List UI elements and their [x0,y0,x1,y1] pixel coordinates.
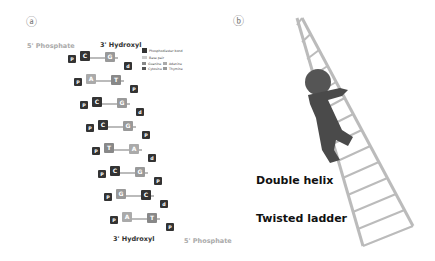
legend-item: Thymine [169,67,183,71]
svg-text:G: G [126,122,131,129]
svg-text:P: P [100,172,104,177]
svg-text:P: P [70,57,74,62]
svg-text:G: G [108,53,113,60]
svg-text:A: A [132,145,137,152]
svg-text:P: P [112,218,116,223]
svg-text:C: C [83,52,88,59]
figure: ⓐ 5' Phosphate 3' Hydroxyl 3' Hydroxyl 5… [0,0,435,261]
svg-text:P: P [76,80,80,85]
svg-text:P: P [156,179,160,184]
legend-item: Phosphodiester bond [149,49,183,53]
svg-text:P: P [168,225,172,230]
svg-text:d: d [126,64,130,69]
svg-text:P: P [94,149,98,154]
caption-double-helix: Double helix [256,174,333,187]
legend-item: Adenine [169,62,182,66]
legend-item: Cytosine [148,67,162,71]
svg-text:C: C [95,98,100,105]
legend-item: Guanine [148,62,161,66]
svg-text:P: P [88,126,92,131]
svg-text:d: d [150,156,154,161]
dna-diagram: PCGdPATPPCGdPCGPPTAdPCGPPGCdPATP [0,0,230,261]
svg-text:G: G [138,168,143,175]
svg-text:P: P [106,195,110,200]
svg-text:P: P [132,87,136,92]
svg-text:P: P [82,103,86,108]
svg-text:C: C [113,167,118,174]
svg-text:A: A [89,75,94,82]
svg-text:G: G [119,190,124,197]
caption-twisted-ladder: Twisted ladder [256,212,347,225]
legend-item: Base pair [149,56,164,60]
svg-text:d: d [138,110,142,115]
svg-text:C: C [144,191,149,198]
svg-text:A: A [125,213,130,220]
svg-text:C: C [101,121,106,128]
svg-text:d: d [162,202,166,207]
svg-text:G: G [120,99,125,106]
svg-text:P: P [144,133,148,138]
